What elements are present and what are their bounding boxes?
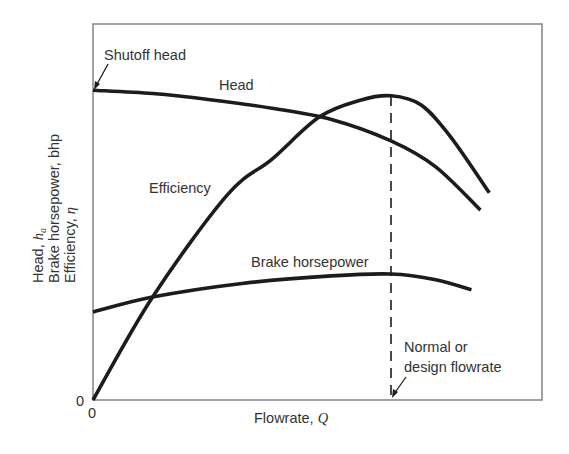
head-curve-label: Head	[219, 77, 254, 93]
brake-horsepower-curve	[93, 274, 471, 312]
brake-horsepower-curve-label: Brake horsepower	[251, 254, 369, 270]
y-zero-tick: 0	[76, 393, 84, 409]
x-zero-tick: 0	[88, 405, 96, 421]
shutoff-arrow-icon	[94, 64, 108, 90]
efficiency-curve-label: Efficiency	[149, 180, 212, 196]
shutoff-head-label: Shutoff head	[104, 47, 186, 63]
svg-text:Brake horsepower, bhp: Brake horsepower, bhp	[46, 134, 62, 283]
plot-frame	[93, 24, 542, 400]
pump-performance-chart: Shutoff head Head Efficiency Brake horse…	[0, 0, 569, 454]
design-flowrate-label-line2: design flowrate	[404, 359, 502, 375]
y-axis-label: Head, ha Brake horsepower, bhp Efficienc…	[30, 134, 78, 283]
design-flowrate-arrow-icon	[392, 377, 406, 398]
design-flowrate-label-line1: Normal or	[404, 339, 468, 355]
x-axis-label: Flowrate, Q	[254, 410, 329, 426]
svg-text:Efficiency, η: Efficiency, η	[62, 207, 78, 283]
